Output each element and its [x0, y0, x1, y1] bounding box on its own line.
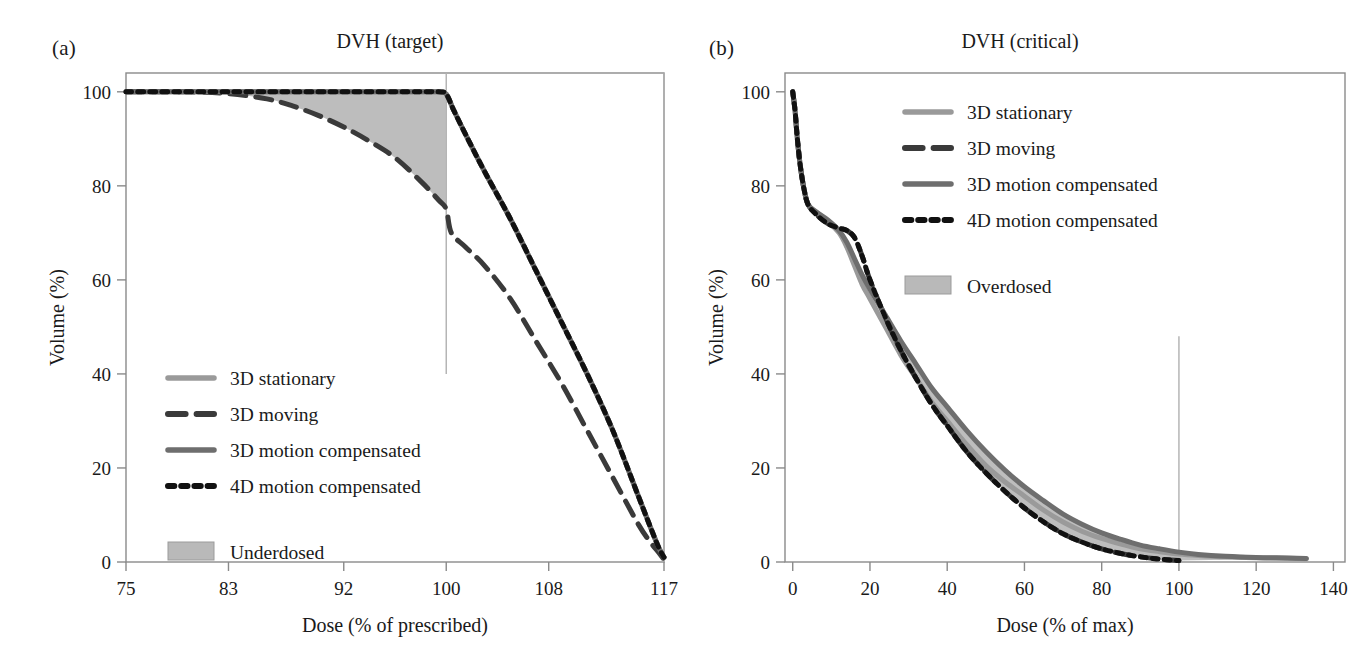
ytick-label-20: 20 — [92, 458, 111, 479]
plot-group: 020406080100020406080100120140Dose (% of… — [705, 73, 1348, 637]
panel-a-title: DVH (target) — [190, 30, 590, 53]
panel-b-label: (b) — [709, 36, 734, 61]
legend-label-underdosed: Underdosed — [230, 542, 324, 563]
panel-a-label: (a) — [52, 36, 76, 61]
x-axis-title: Dose (% of max) — [996, 614, 1133, 637]
ytick-label-80: 80 — [92, 176, 111, 197]
legend-swatch-underdosed — [168, 542, 214, 560]
xtick-label-75: 75 — [117, 578, 136, 599]
xtick-label-80: 80 — [1092, 578, 1111, 599]
y-axis-title: Volume (%) — [46, 269, 69, 366]
ytick-label-80: 80 — [751, 176, 770, 197]
ytick-label-60: 60 — [92, 270, 111, 291]
x-axis-title: Dose (% of prescribed) — [302, 614, 488, 637]
xtick-label-83: 83 — [219, 578, 238, 599]
legend-label-overdosed: Overdosed — [967, 276, 1052, 297]
plot-frame — [785, 73, 1345, 562]
legend-label-4d-motion-compensated: 4D motion compensated — [230, 476, 421, 497]
dvh-figure: (a) DVH (target) 02040608010075839210010… — [0, 0, 1367, 666]
xtick-label-117: 117 — [650, 578, 678, 599]
shaded-region-overdosed — [870, 280, 1306, 561]
legend-label-3d-motion-compensated: 3D motion compensated — [230, 440, 421, 461]
legend-label-3d-moving: 3D moving — [230, 404, 319, 425]
ytick-label-0: 0 — [761, 552, 771, 573]
ytick-label-40: 40 — [751, 364, 770, 385]
xtick-label-100: 100 — [432, 578, 461, 599]
panel-b-dvh-critical: (b) DVH (critical) 020406080100020406080… — [690, 0, 1367, 666]
legend: 3D stationary3D moving3D motion compensa… — [168, 368, 421, 563]
xtick-label-20: 20 — [860, 578, 879, 599]
panel-b-title: DVH (critical) — [820, 30, 1220, 53]
xtick-label-108: 108 — [534, 578, 563, 599]
panel-a-plot: 020406080100758392100108117Dose (% of pr… — [0, 0, 690, 666]
legend-label-3d-moving: 3D moving — [967, 138, 1056, 159]
xtick-label-100: 100 — [1165, 578, 1194, 599]
ytick-label-60: 60 — [751, 270, 770, 291]
legend-label-3d-stationary: 3D stationary — [967, 102, 1073, 123]
ytick-label-20: 20 — [751, 458, 770, 479]
xtick-label-140: 140 — [1319, 578, 1348, 599]
series-4d-motion-compensated — [793, 92, 1179, 561]
legend-label-4d-motion-compensated: 4D motion compensated — [967, 210, 1158, 231]
panel-a-dvh-target: (a) DVH (target) 02040608010075839210010… — [0, 0, 690, 666]
xtick-label-0: 0 — [788, 578, 798, 599]
panel-b-plot: 020406080100020406080100120140Dose (% of… — [690, 0, 1367, 666]
y-axis-title: Volume (%) — [705, 269, 728, 366]
ytick-label-100: 100 — [742, 82, 771, 103]
legend-swatch-overdosed — [905, 276, 951, 294]
xtick-label-92: 92 — [334, 578, 353, 599]
ytick-label-100: 100 — [83, 82, 112, 103]
ytick-label-0: 0 — [102, 552, 112, 573]
legend-label-3d-stationary: 3D stationary — [230, 368, 336, 389]
series-3d-moving — [793, 92, 1179, 561]
legend-label-3d-motion-compensated: 3D motion compensated — [967, 174, 1158, 195]
series-3d-motion-compensated — [793, 92, 1307, 559]
xtick-label-40: 40 — [938, 578, 957, 599]
legend: 3D stationary3D moving3D motion compensa… — [905, 102, 1158, 297]
ytick-label-40: 40 — [92, 364, 111, 385]
plot-group: 020406080100758392100108117Dose (% of pr… — [46, 73, 678, 637]
series-3d-stationary — [793, 92, 1307, 559]
xtick-label-120: 120 — [1242, 578, 1271, 599]
shaded-region-underdosed — [126, 92, 446, 210]
xtick-label-60: 60 — [1015, 578, 1034, 599]
